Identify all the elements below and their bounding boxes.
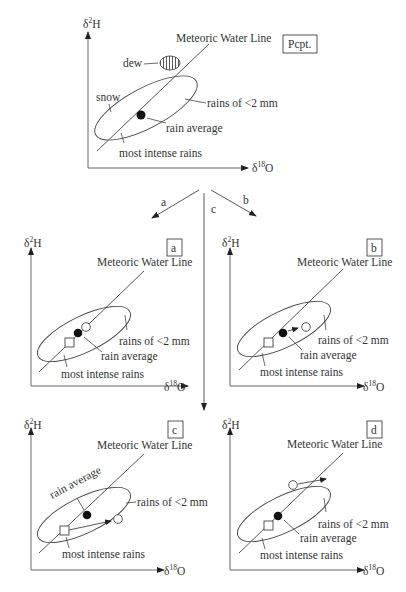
panel-precipitation: δ2H δ18O Pcpt. Meteoric Water Line dew s… [83, 16, 317, 174]
svg-text:rains of <2 mm: rains of <2 mm [318, 518, 389, 530]
svg-text:Meteoric Water Line: Meteoric Water Line [97, 439, 192, 451]
rains-small-label: rains of <2 mm [207, 97, 278, 109]
svg-text:rain average: rain average [101, 350, 158, 363]
svg-text:most intense rains: most intense rains [260, 549, 344, 561]
svg-text:rain average: rain average [300, 532, 357, 545]
svg-text:rain average: rain average [300, 349, 357, 362]
snow-label: snow [96, 91, 121, 103]
svg-text:most intense rains: most intense rains [260, 366, 344, 378]
panel-c: δ2H δ18O c Meteoric Water Line rains of … [24, 417, 208, 577]
svg-text:δ2H: δ2H [222, 417, 239, 431]
svg-text:rains of <2 mm: rains of <2 mm [318, 334, 389, 346]
svg-text:most intense rains: most intense rains [61, 368, 145, 380]
svg-text:δ18O: δ18O [363, 563, 384, 577]
rain-ellipse [86, 64, 205, 153]
rain-average-label: rain average [166, 122, 223, 135]
intense-rains-marker [65, 338, 74, 347]
panel-a: δ2H δ18O a Meteoric Water Line rains of … [24, 235, 192, 393]
shifted-average-marker [82, 323, 91, 332]
svg-text:Meteoric Water Line: Meteoric Water Line [287, 438, 382, 450]
panel-tag: Pcpt. [288, 38, 311, 51]
svg-text:rains of <2 mm: rains of <2 mm [119, 335, 190, 347]
svg-text:rains of <2 mm: rains of <2 mm [137, 496, 208, 508]
panel-b: δ2H δ18O b Meteoric Water Line rains of … [222, 235, 392, 393]
dew-label: dew [123, 57, 143, 69]
panel-d: δ2H δ18O d Meteoric Water Line rains of … [222, 417, 389, 577]
y-axis-label: δ2H [24, 235, 41, 249]
svg-text:Meteoric Water Line: Meteoric Water Line [97, 256, 192, 268]
svg-text:δ2H: δ2H [24, 417, 41, 431]
svg-text:δ18O: δ18O [164, 563, 185, 577]
branch-b-label: b [243, 194, 249, 206]
x-axis-label: δ18O [252, 160, 273, 174]
branch-b-arrow [211, 190, 256, 216]
mwl-label: Meteoric Water Line [176, 32, 271, 44]
branch-a-arrow [152, 190, 199, 218]
intense-rains-label: most intense rains [119, 147, 203, 159]
panel-tag: c [172, 424, 177, 436]
rain-average-marker [74, 329, 83, 338]
isotope-diagram: δ2H δ18O Pcpt. Meteoric Water Line dew s… [0, 0, 406, 592]
svg-text:Meteoric Water Line: Meteoric Water Line [297, 256, 392, 268]
svg-text:δ2H: δ2H [222, 235, 239, 249]
y-axis-label: δ2H [83, 16, 100, 30]
panel-tag: d [371, 424, 377, 436]
x-axis-label: δ18O [164, 379, 185, 393]
panel-tag: a [171, 242, 176, 254]
svg-text:most intense rains: most intense rains [62, 548, 146, 560]
rain-average-marker [137, 111, 146, 120]
dew-marker [160, 56, 180, 70]
panel-tag: b [371, 242, 377, 254]
branch-a-label: a [161, 196, 166, 208]
branch-arrows: a b c [152, 190, 256, 410]
svg-text:rain average: rain average [47, 464, 103, 502]
branch-c-label: c [211, 203, 216, 215]
svg-text:δ18O: δ18O [363, 379, 384, 393]
